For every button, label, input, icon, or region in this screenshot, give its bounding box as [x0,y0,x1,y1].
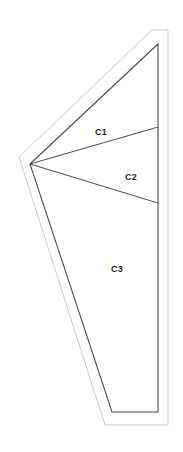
region-label-c2: C2 [125,173,137,182]
diagram-canvas: C1 C2 C3 [0,0,183,452]
main-wedge-outline [30,44,158,412]
region-label-c3: C3 [111,265,123,274]
region-label-c1: C1 [95,128,107,137]
shape-drawing [0,0,183,452]
